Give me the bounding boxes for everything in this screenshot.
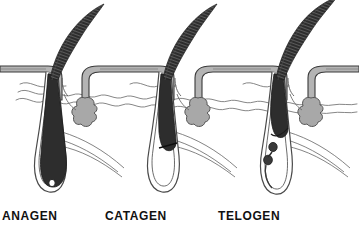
hair-growth-cycle-figure: ANAGEN CATAGEN TELOGEN	[0, 0, 359, 228]
stage-label-catagen: CATAGEN	[105, 210, 167, 222]
hair-cycle-diagram	[0, 0, 359, 228]
stage-label-anagen: ANAGEN	[2, 210, 58, 222]
epithelial-strand-bead	[269, 142, 277, 151]
stage-label-telogen: TELOGEN	[218, 210, 280, 222]
dermal-papilla	[49, 179, 55, 186]
